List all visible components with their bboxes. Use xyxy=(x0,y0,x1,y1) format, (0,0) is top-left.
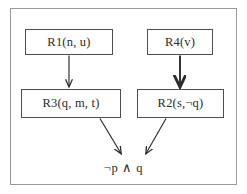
node-r3: R3(q, m, t) xyxy=(21,89,121,118)
conclusion-formula: ¬p ∧ q xyxy=(0,160,247,176)
node-r2-label: R2(s,¬q) xyxy=(158,96,204,111)
node-r4: R4(v) xyxy=(147,29,213,55)
node-r3-label: R3(q, m, t) xyxy=(42,96,99,111)
node-r1: R1(n, u) xyxy=(25,29,113,55)
diagram-canvas: R1(n, u) R4(v) R3(q, m, t) R2(s,¬q) ¬p ∧… xyxy=(0,0,247,194)
node-r4-label: R4(v) xyxy=(165,35,195,50)
node-r1-label: R1(n, u) xyxy=(47,35,90,50)
conclusion-label: ¬p ∧ q xyxy=(104,161,143,175)
node-r2: R2(s,¬q) xyxy=(137,89,224,118)
